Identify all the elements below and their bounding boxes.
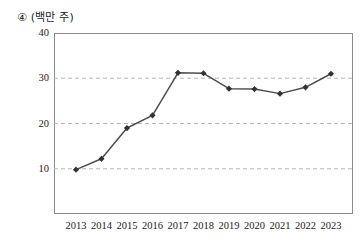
x-axis-tick-label: 2023 <box>311 220 351 232</box>
data-point-marker <box>277 91 283 97</box>
data-point-marker <box>73 167 79 173</box>
data-point-marker <box>251 86 257 92</box>
plot-canvas <box>54 33 353 214</box>
chart-title: ④ (백만 주) <box>17 8 74 24</box>
y-axis-tick-label: 40 <box>9 28 49 39</box>
y-axis-tick-label: 30 <box>9 73 49 84</box>
y-axis-tick-label: 20 <box>9 119 49 130</box>
y-axis-tick-label: 10 <box>9 164 49 175</box>
data-point-marker <box>328 71 334 77</box>
line-chart: ④ (백만 주) 10203040 2013201420152016201720… <box>0 0 362 247</box>
data-point-marker <box>302 84 308 90</box>
x-axis-tick-labels: 2013201420152016201720182019202020212022… <box>54 220 353 236</box>
data-line <box>76 73 331 170</box>
